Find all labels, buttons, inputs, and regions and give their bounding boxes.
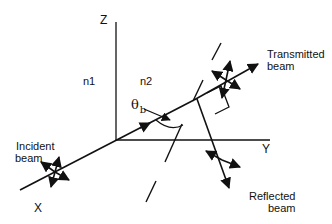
incident-beam-label-line2: beam: [15, 152, 55, 164]
medium-n1-label: n1: [83, 75, 95, 87]
angle-subscript: b: [140, 104, 146, 115]
incident-beam-arrow: [140, 123, 150, 128]
z-axis-label: Z: [100, 14, 107, 26]
y-axis-label: Y: [262, 143, 270, 155]
incident-beam-label-line1: Incident: [16, 140, 55, 152]
incident-beam-label: Incident beam: [16, 140, 55, 164]
medium-n2-label: n2: [140, 75, 152, 87]
reflected-beam-label: Reflected beam: [249, 190, 295, 214]
interface-plane: [146, 43, 221, 202]
transmitted-beam-label-line1: Transmitted: [267, 48, 325, 60]
x-axis-label: X: [34, 202, 42, 214]
reflected-beam-label-line2: beam: [249, 202, 295, 214]
reflected-beam-label-line1: Reflected: [249, 190, 295, 202]
transmitted-beam-label-line2: beam: [267, 60, 325, 72]
transmitted-polarization-arrows: [212, 61, 240, 98]
reflected-beam-line: [197, 99, 229, 188]
transmitted-beam-label: Transmitted beam: [267, 48, 325, 72]
angle-arc: [156, 120, 183, 128]
brewster-angle-label: θb: [131, 99, 145, 112]
angle-symbol: θ: [131, 97, 139, 112]
reflected-polarization-arrows: [206, 151, 240, 167]
